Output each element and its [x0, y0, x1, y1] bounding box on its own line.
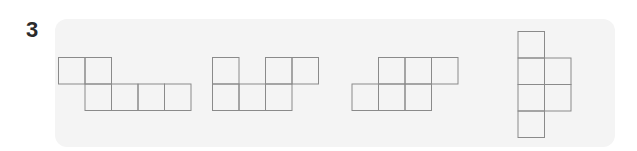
question-number: 3	[26, 17, 38, 43]
nets-panel	[55, 19, 615, 147]
